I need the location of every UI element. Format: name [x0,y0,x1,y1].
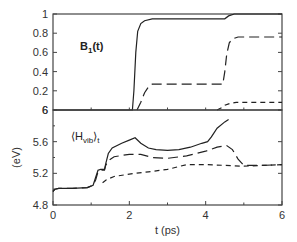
y-tick-label: 0.6 [33,46,48,58]
x-tick-label: 6 [279,209,285,221]
panel-annotation: ⟨Hvib⟩t [71,130,100,145]
x-tick-label: 2 [126,209,132,221]
series-solid [53,14,282,110]
top-panel: 60.20.40.60.81B1(t) [33,8,282,116]
x-tick-label: 0 [50,209,56,221]
y-tick-label: 1 [42,8,48,20]
plot-frame [53,110,282,205]
series-long-dashed [137,37,282,110]
x-axis-label: t (ps) [155,224,180,236]
series-short-dashed [217,102,282,110]
y-tick-label: 0.4 [33,66,48,78]
y-axis-label: (eV) [10,147,22,168]
y-tick-label: 0.2 [33,85,48,97]
chart: 60.20.40.60.81B1(t) 4.85.25.660246⟨Hvib⟩… [0,0,297,242]
y-tick-label: 4.8 [33,199,48,211]
series-short-dashed [103,165,282,183]
series-long-dashed [53,146,282,192]
y-tick-label: 6 [42,104,48,116]
y-tick-label: 0.8 [33,27,48,39]
x-tick-label: 4 [203,209,209,221]
panel-annotation: B1(t) [80,40,104,55]
plot-frame [53,14,282,110]
y-tick-label: 5.2 [33,167,48,179]
bottom-panel: 4.85.25.660246⟨Hvib⟩tt (ps)(eV) [10,104,285,236]
y-tick-label: 5.6 [33,136,48,148]
